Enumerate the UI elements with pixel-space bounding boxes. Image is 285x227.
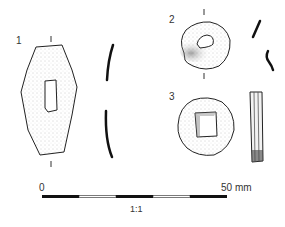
object-1-hole (45, 80, 57, 112)
object-1-profile (106, 45, 113, 157)
scale-ratio-label: 1:1 (130, 205, 143, 214)
object-1-label: 1 (16, 36, 22, 46)
object-3-profile (250, 92, 263, 162)
scale-bar (42, 195, 227, 198)
object-2-label: 2 (169, 15, 175, 25)
object-3-disc (178, 98, 234, 155)
object-3-label: 3 (169, 92, 175, 102)
object-1-plate (21, 36, 77, 167)
object-2-disc (180, 9, 230, 79)
scale-end-label: 50 mm (221, 183, 252, 193)
scale-start-label: 0 (39, 183, 45, 193)
object-2-profile (253, 21, 273, 70)
